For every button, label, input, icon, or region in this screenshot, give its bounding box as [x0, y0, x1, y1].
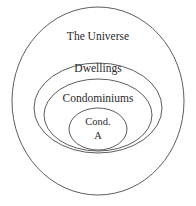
set-label-dwellings: Dwellings: [74, 62, 122, 75]
set-label-universe: The Universe: [67, 30, 129, 42]
set-label-cond-a-line2: A: [94, 130, 102, 141]
euler-diagram-canvas: The Universe Dwellings Condominiums Cond…: [0, 0, 196, 206]
set-label-cond-a-line1: Cond.: [85, 116, 110, 127]
euler-diagram: The Universe Dwellings Condominiums Cond…: [0, 0, 196, 206]
set-shape-cond-a: [69, 108, 127, 150]
set-label-condominiums: Condominiums: [63, 92, 134, 104]
